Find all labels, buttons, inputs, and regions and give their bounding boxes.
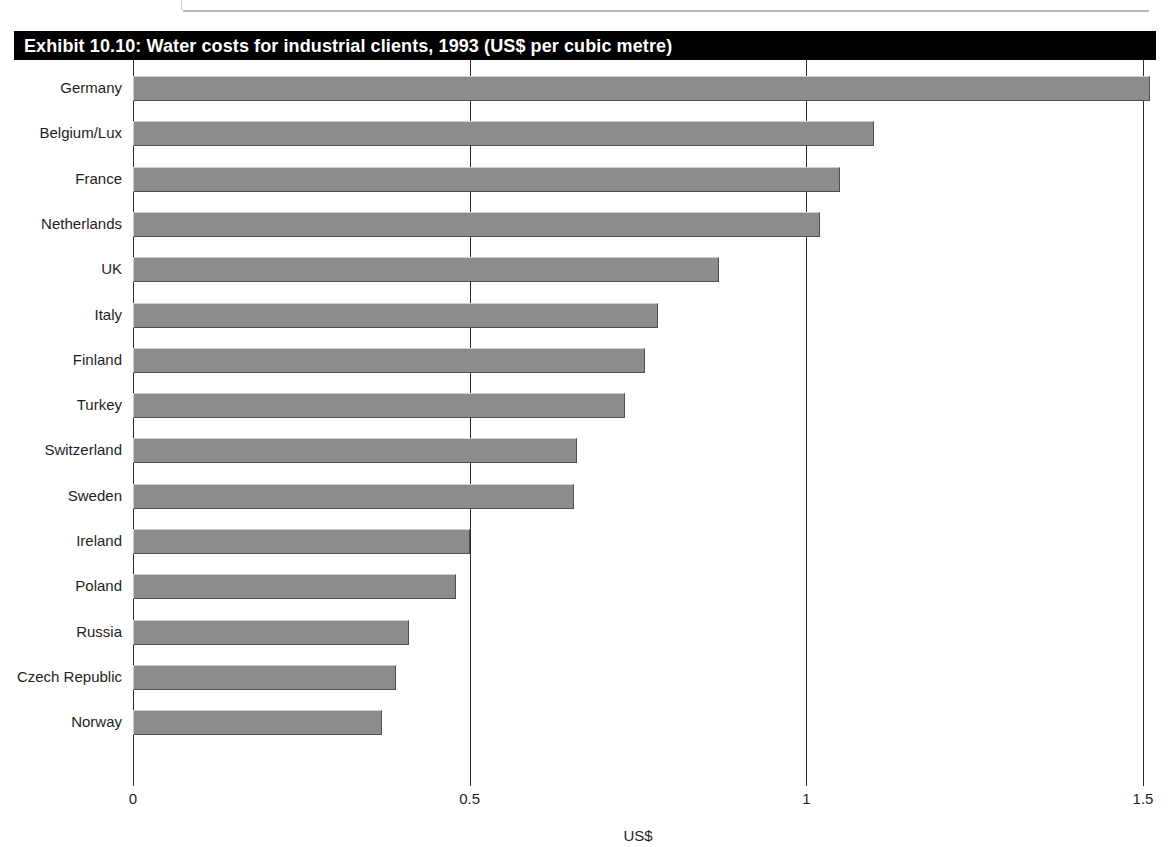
x-tick-label: 0.5	[440, 790, 500, 808]
bar	[133, 348, 645, 373]
bar	[133, 257, 719, 282]
category-label: Turkey	[0, 395, 122, 414]
bar	[133, 438, 577, 463]
bar-chart: GermanyBelgium/LuxFranceNetherlandsUKIta…	[0, 60, 1172, 847]
category-label: Poland	[0, 576, 122, 595]
artifact-ghost-text	[600, 0, 900, 8]
category-label: Belgium/Lux	[0, 123, 122, 142]
bar	[133, 710, 382, 735]
category-label: Czech Republic	[0, 667, 122, 686]
bar	[133, 212, 820, 237]
exhibit-title: Exhibit 10.10: Water costs for industria…	[24, 37, 672, 55]
artifact-tick-mark	[181, 0, 182, 10]
bar-row: Switzerland	[0, 434, 1172, 479]
x-tick-label: 1	[776, 790, 836, 808]
category-label: Finland	[0, 350, 122, 369]
bar-row: Poland	[0, 570, 1172, 615]
bar	[133, 393, 625, 418]
bar	[133, 620, 409, 645]
bar-row: France	[0, 163, 1172, 208]
bar-series: GermanyBelgium/LuxFranceNetherlandsUKIta…	[0, 60, 1172, 772]
x-axis: 00.511.5 US$	[0, 772, 1172, 847]
bar-row: UK	[0, 253, 1172, 298]
x-tick	[1143, 772, 1144, 786]
page-scan-artifact	[0, 0, 1172, 22]
bar-row: Sweden	[0, 480, 1172, 525]
x-tick-label: 1.5	[1113, 790, 1172, 808]
bar-row: Turkey	[0, 389, 1172, 434]
category-label: Russia	[0, 622, 122, 641]
bar-row: Netherlands	[0, 208, 1172, 253]
bar-row: Finland	[0, 344, 1172, 389]
bar-row: Russia	[0, 616, 1172, 661]
bar	[133, 121, 874, 146]
bar	[133, 529, 470, 554]
bar	[133, 303, 658, 328]
bar	[133, 665, 396, 690]
category-label: Ireland	[0, 531, 122, 550]
bar-row: Czech Republic	[0, 661, 1172, 706]
bar	[133, 76, 1150, 101]
bar	[133, 574, 456, 599]
bar	[133, 167, 840, 192]
bar-row: Belgium/Lux	[0, 117, 1172, 162]
bar-row: Norway	[0, 706, 1172, 751]
x-tick-label: 0	[103, 790, 163, 808]
category-label: Sweden	[0, 486, 122, 505]
plot-area: GermanyBelgium/LuxFranceNetherlandsUKIta…	[0, 60, 1172, 772]
bar-row: Ireland	[0, 525, 1172, 570]
category-label: Norway	[0, 712, 122, 731]
category-label: Germany	[0, 78, 122, 97]
artifact-horizontal-rule	[183, 10, 1149, 12]
bar-row: Italy	[0, 299, 1172, 344]
x-tick	[806, 772, 807, 786]
x-axis-title: US$	[133, 827, 1143, 844]
category-label: France	[0, 169, 122, 188]
x-tick	[133, 772, 134, 786]
bar-row: Germany	[0, 72, 1172, 117]
x-tick	[470, 772, 471, 786]
category-label: UK	[0, 259, 122, 278]
category-label: Italy	[0, 305, 122, 324]
exhibit-title-bar: Exhibit 10.10: Water costs for industria…	[14, 31, 1156, 60]
bar	[133, 484, 574, 509]
category-label: Switzerland	[0, 440, 122, 459]
category-label: Netherlands	[0, 214, 122, 233]
